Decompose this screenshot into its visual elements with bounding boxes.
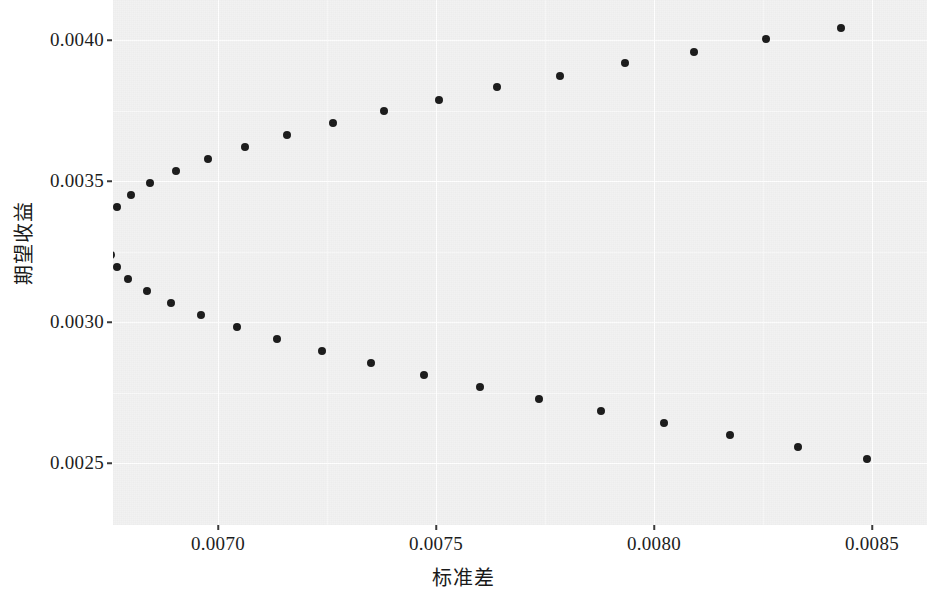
data-point [762,35,770,43]
gridline-y-minor [113,181,927,182]
y-axis-tick-mark [107,321,112,323]
data-point [535,395,543,403]
x-axis-tick-mark [435,525,437,530]
y-axis-title: 期望收益 [8,163,37,323]
data-point [660,419,668,427]
gridline-y-minor [113,393,927,394]
data-point [167,299,175,307]
x-axis-tick-label: 0.0080 [627,533,681,555]
scatter-chart-figure: 0.00400.00350.00300.0025 0.00700.00750.0… [0,0,927,592]
x-axis-tick-labels: 0.00700.00750.00800.0085 [0,533,927,559]
data-point [493,83,501,91]
gridline-y-major [113,463,927,464]
y-axis-tick-label: 0.0035 [50,170,104,192]
x-axis-title: 标准差 [0,562,927,591]
data-point [837,24,845,32]
x-axis-tick-label: 0.0070 [191,533,245,555]
gridline-y-minor [113,252,927,253]
data-point [556,72,564,80]
data-point [283,131,291,139]
x-axis-tick-label: 0.0075 [409,533,463,555]
gridline-x-minor [327,0,328,525]
panel-texture [113,0,927,525]
data-point [172,167,180,175]
x-axis-tick-mark [653,525,655,530]
y-axis-tick-label: 0.0030 [50,311,104,333]
data-point [127,191,135,199]
data-point [233,323,241,331]
gridline-x-major [218,0,219,525]
x-axis-tick-mark [871,525,873,530]
y-axis-tick-mark [107,180,112,182]
gridline-x-minor [763,0,764,525]
data-point [367,359,375,367]
y-axis-tick-marks [107,0,113,525]
x-axis-tick-marks [0,525,927,531]
data-point [197,311,205,319]
data-point [597,407,605,415]
x-axis-tick-mark [217,525,219,530]
data-point [318,347,326,355]
gridline-x-major [872,0,873,525]
gridline-x-major [436,0,437,525]
data-point [435,96,443,104]
data-point [241,143,249,151]
y-axis-tick-mark [107,462,112,464]
gridline-y-minor [113,111,927,112]
data-point [204,155,212,163]
data-point [380,107,388,115]
plot-panel [113,0,927,525]
data-point [863,455,871,463]
gridline-y-major [113,40,927,41]
data-point [420,371,428,379]
data-point [113,203,121,211]
data-point [113,263,121,271]
gridline-x-minor [545,0,546,525]
data-point [476,383,484,391]
data-point [146,179,154,187]
y-axis-tick-label: 0.0025 [50,452,104,474]
data-point [143,287,151,295]
data-point [794,443,802,451]
y-axis-tick-label: 0.0040 [50,29,104,51]
data-point [690,48,698,56]
data-point [273,335,281,343]
y-axis-tick-mark [107,39,112,41]
data-point [621,59,629,67]
data-point [726,431,734,439]
x-axis-tick-label: 0.0085 [845,533,899,555]
gridline-x-major [654,0,655,525]
data-point [124,275,132,283]
data-point [329,119,337,127]
